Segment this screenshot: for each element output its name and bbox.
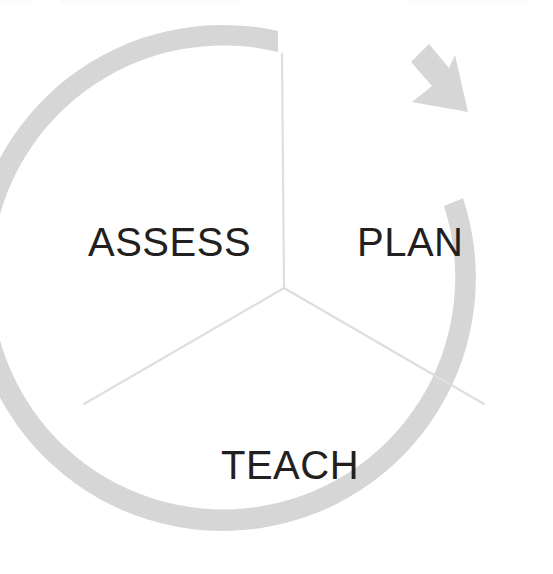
divider-assess-teach — [84, 288, 284, 404]
segment-label-assess: ASSESS — [88, 222, 251, 262]
clockwise-arrowhead-icon — [411, 44, 468, 112]
segment-label-teach: TEACH — [221, 445, 359, 485]
segment-label-plan: PLAN — [357, 222, 464, 262]
cycle-diagram: ASSESS PLAN TEACH — [0, 0, 553, 574]
divider-plan-assess — [282, 54, 284, 288]
cycle-graphic — [0, 0, 553, 574]
